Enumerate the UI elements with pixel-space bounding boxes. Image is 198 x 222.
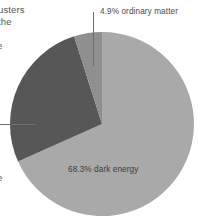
cropped-caption-line-2: the xyxy=(0,16,12,27)
pie-chart xyxy=(0,0,198,222)
leader-line-ordinary-matter xyxy=(93,12,94,66)
cropped-caption-line-1: usters xyxy=(0,4,25,15)
pie-label-dark-energy: 68.3% dark energy xyxy=(68,165,138,175)
chart-canvas: 4.9% ordinary matter 68.3% dark energy u… xyxy=(0,0,198,222)
cropped-caption-line-3: e xyxy=(0,40,2,51)
pie-label-ordinary-matter: 4.9% ordinary matter xyxy=(100,7,178,17)
cropped-caption-line-4: e xyxy=(0,172,2,183)
leader-line-dark-matter xyxy=(0,124,36,125)
